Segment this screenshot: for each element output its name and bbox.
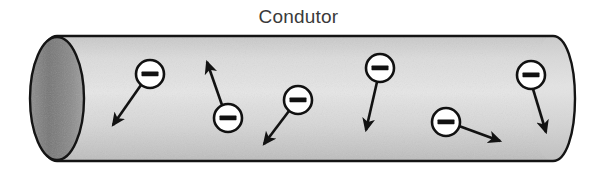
- electron-4-minus-sign: [372, 66, 389, 71]
- electron-6-minus-sign: [523, 73, 540, 78]
- electron-5-minus-sign: [438, 120, 455, 125]
- conductor-diagram: [0, 0, 597, 177]
- electron-2-minus-sign: [220, 116, 237, 121]
- electron-1-minus-sign: [142, 72, 159, 77]
- electron-3-minus-sign: [290, 98, 307, 103]
- conductor-figure: Condutor: [0, 0, 597, 177]
